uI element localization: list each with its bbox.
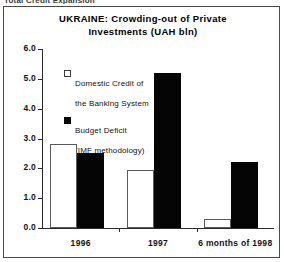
y-axis-tick-mark (38, 168, 43, 169)
y-axis-tick-mark (38, 109, 43, 110)
chart-title-line-2: Investments (UAH bln) (22, 26, 264, 39)
x-axis-category-label: 1997 (119, 238, 196, 248)
y-axis-tick-label: 1.0 (24, 192, 36, 202)
figure-frame: UKRAINE: Crowding-out of Private Investm… (3, 6, 280, 258)
y-axis-tick-label: 4.0 (24, 103, 36, 113)
x-axis-line (42, 228, 274, 229)
y-axis-tick-mark (38, 139, 43, 140)
bar-domestic-credit (127, 170, 154, 228)
y-axis-tick-label: 6.0 (24, 43, 36, 53)
x-axis-tick-mark (119, 228, 120, 232)
y-axis-tick-mark (38, 198, 43, 199)
bar-budget-deficit (231, 162, 258, 228)
y-axis-tick-label: 0.0 (24, 222, 36, 232)
x-axis-tick-mark (197, 228, 198, 232)
y-axis-tick-mark (38, 79, 43, 80)
y-axis-tick-label: 3.0 (24, 133, 36, 143)
bar-domestic-credit (50, 144, 77, 228)
y-axis-tick-mark (38, 49, 43, 50)
bar-budget-deficit (77, 153, 104, 228)
bar-budget-deficit (154, 73, 181, 228)
plot-area: 0.01.02.03.04.05.06.0 199619976 months o… (42, 49, 274, 228)
chart-title: UKRAINE: Crowding-out of Private Investm… (22, 13, 264, 38)
chart-title-line-1: UKRAINE: Crowding-out of Private (22, 13, 264, 26)
x-axis-category-label: 6 months of 1998 (197, 238, 274, 248)
scan-top-caption: Total Credit Expansion (4, 0, 280, 4)
y-axis-tick-label: 2.0 (24, 162, 36, 172)
y-axis-tick-mark (38, 228, 43, 229)
y-axis-tick-label: 5.0 (24, 73, 36, 83)
bar-domestic-credit (204, 219, 231, 228)
x-axis-category-label: 1996 (42, 238, 119, 248)
